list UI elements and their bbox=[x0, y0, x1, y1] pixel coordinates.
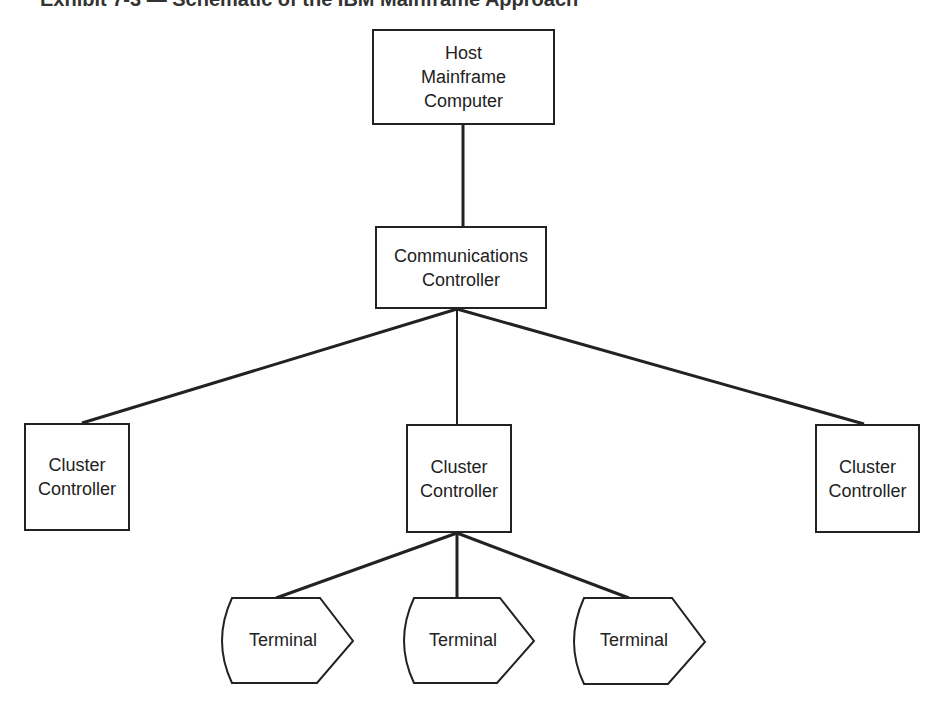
terminal-label-1: Terminal bbox=[223, 630, 343, 651]
terminal-label-2: Terminal bbox=[403, 630, 523, 651]
cluster-controller-middle-box: ClusterController bbox=[406, 424, 512, 533]
communications-controller-box: CommunicationsController bbox=[375, 226, 547, 309]
terminal-label-3: Terminal bbox=[574, 630, 694, 651]
host-mainframe-box: HostMainframeComputer bbox=[372, 29, 555, 125]
cluster-controller-right-box: ClusterController bbox=[815, 424, 920, 533]
cluster-controller-left-box: ClusterController bbox=[24, 423, 130, 531]
